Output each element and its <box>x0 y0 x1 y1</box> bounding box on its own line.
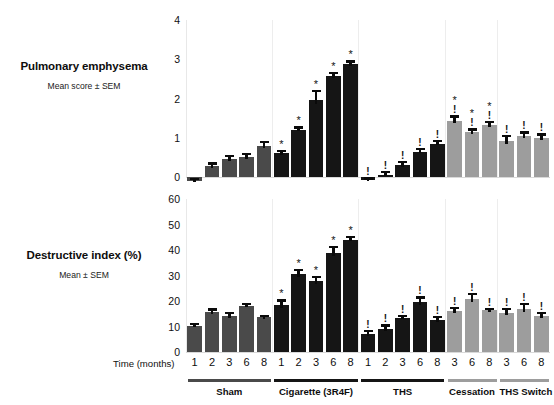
x-axis-tick-label: 3 <box>220 357 238 368</box>
bar <box>326 76 341 177</box>
chart-panel-destructive-index: 0102030405060*****!!!!!!!!!!! <box>186 199 550 352</box>
bar <box>413 152 428 178</box>
group-separator-line <box>497 20 498 177</box>
error-bar-cap <box>450 307 459 309</box>
x-axis-tick-label: 2 <box>376 357 394 368</box>
x-axis-tick-label: 8 <box>480 357 498 368</box>
bar <box>395 318 410 352</box>
error-bar-cap <box>433 316 442 318</box>
error-bar-cap <box>190 178 199 180</box>
x-axis-tick-label: 6 <box>515 357 533 368</box>
error-bar-cap <box>433 140 442 142</box>
bar <box>257 317 272 352</box>
significance-exclamation: ! <box>483 111 495 120</box>
y-axis-tick-label: 30 <box>150 271 180 281</box>
bar <box>205 312 220 352</box>
y-axis-tick-label: 3 <box>150 54 180 64</box>
group-separator-line <box>358 199 359 352</box>
group-label-cigarette-3r4f: Cigarette (3R4F) <box>274 386 358 397</box>
x-axis-tick-label: 3 <box>394 357 412 368</box>
significance-asterisk: * <box>327 236 339 245</box>
y-axis-tick-label: 60 <box>150 194 180 204</box>
error-bar-cap <box>398 315 407 317</box>
significance-exclamation: ! <box>466 283 478 292</box>
x-axis-tick-label: 3 <box>446 357 464 368</box>
group-separator-line <box>358 20 359 177</box>
error-bar-cap <box>190 323 199 325</box>
x-axis-tick-label: 6 <box>238 357 256 368</box>
bar <box>447 311 462 352</box>
bar <box>309 281 324 352</box>
error-bar-cap <box>468 128 477 130</box>
error-bar-cap <box>277 299 286 301</box>
significance-exclamation: ! <box>518 121 530 130</box>
error-bar-cap <box>520 303 529 305</box>
error-bar-cap <box>242 153 251 155</box>
x-axis-tick-label: 8 <box>255 357 273 368</box>
error-bar-cap <box>312 276 321 278</box>
bar <box>291 274 306 352</box>
significance-asterisk: * <box>466 109 478 118</box>
error-bar-cap <box>450 115 459 117</box>
significance-exclamation: ! <box>431 306 443 315</box>
x-axis-tick-label: 6 <box>324 357 342 368</box>
group-separator-line <box>272 199 273 352</box>
x-axis-tick-label: 1 <box>186 357 204 368</box>
x-axis-tick-label: 8 <box>342 357 360 368</box>
bar <box>274 305 289 352</box>
group-rule-cessation <box>448 379 497 382</box>
error-bar-cap <box>260 315 269 317</box>
bar <box>274 153 289 177</box>
significance-exclamation: ! <box>379 314 391 323</box>
panel-label-pulmonary-emphysema: Pulmonary emphysema Mean score ± SEM <box>0 60 168 91</box>
error-bar-cap <box>294 126 303 128</box>
error-bar-cap <box>416 296 425 298</box>
significance-asterisk: * <box>293 259 305 268</box>
figure-panel-group: Pulmonary emphysema Mean score ± SEM Des… <box>0 0 554 405</box>
y-axis-tick-label: 0 <box>150 347 180 357</box>
bar <box>309 100 324 177</box>
error-bar-cap <box>346 60 355 62</box>
bar <box>447 121 462 177</box>
error-bar-cap <box>346 236 355 238</box>
group-rule-sham <box>188 379 272 382</box>
bar <box>187 326 202 352</box>
significance-asterisk: * <box>345 226 357 235</box>
significance-exclamation: ! <box>535 302 547 311</box>
group-rule-ths-switch <box>500 379 549 382</box>
group-rule-cigarette-3r4f <box>274 379 358 382</box>
error-bar-cap <box>208 162 217 164</box>
panel-label-destructive-index: Destructive index (%) Mean ± SEM <box>0 249 168 280</box>
error-bar-cap <box>329 72 338 74</box>
group-label-sham: Sham <box>188 386 272 397</box>
error-bar-cap <box>277 150 286 152</box>
y-axis-tick-label: 20 <box>150 296 180 306</box>
bar <box>499 313 514 352</box>
y-axis-tick-label: 2 <box>150 94 180 104</box>
error-bar-cap <box>260 141 269 143</box>
y-axis-tick-label: 50 <box>150 220 180 230</box>
x-axis-tick-label: 1 <box>272 357 290 368</box>
x-axis-tick-label: 2 <box>290 357 308 368</box>
significance-asterisk: * <box>345 50 357 59</box>
bar <box>343 240 358 352</box>
bar <box>239 306 254 352</box>
panel-title-pulmonary-emphysema: Pulmonary emphysema <box>0 60 168 72</box>
x-axis-tick-label: 6 <box>463 357 481 368</box>
bar <box>257 146 272 177</box>
error-bar-cap <box>225 312 234 314</box>
bar <box>326 253 341 352</box>
group-separator-line <box>445 199 446 352</box>
group-label-cessation: Cessation <box>448 386 497 397</box>
significance-asterisk: * <box>327 62 339 71</box>
group-separator-line <box>497 199 498 352</box>
significance-exclamation: ! <box>449 297 461 306</box>
bar <box>465 132 480 177</box>
group-label-ths: THS <box>361 386 445 397</box>
significance-asterisk: * <box>293 116 305 125</box>
error-bar-cap <box>520 131 529 133</box>
x-axis-caption: Time (months) <box>113 358 174 369</box>
bar <box>361 334 376 352</box>
group-label-ths-switch: THS Switch <box>500 386 549 397</box>
x-axis-tick-label: 8 <box>428 357 446 368</box>
